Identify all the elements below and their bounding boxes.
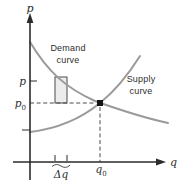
q-axis-label: q [170,156,177,169]
demand-curve-label-line1: Demand [50,43,85,53]
figure-canvas: p q Demand curve Supply curve p p0 q0 Δq [0,0,185,190]
supply-curve [30,56,140,132]
q-axis-arrowhead [156,159,166,166]
delta-q-label: Δq [53,168,69,180]
equilibrium-point [97,100,103,106]
demand-curve-label-line2: curve [56,55,79,65]
delta-q-squiggle [52,165,70,168]
supply-demand-figure: p q Demand curve Supply curve p p0 q0 Δq [0,0,185,190]
supply-curve-label-line2: curve [129,86,152,96]
q0-label: q0 [95,163,106,178]
price-p-label: p [19,75,26,87]
p-axis-label: p [26,2,33,15]
p0-label: p0 [15,97,26,112]
q0-subscript: 0 [102,170,106,178]
supply-curve-label-line1: Supply [127,74,156,84]
p0-subscript: 0 [22,104,26,112]
